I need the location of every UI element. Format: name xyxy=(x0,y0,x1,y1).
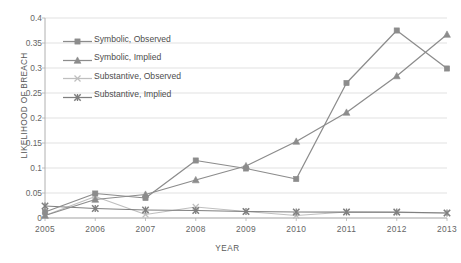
x-tick-label: 2012 xyxy=(374,224,420,234)
legend-item[interactable]: Symbolic, Observed xyxy=(63,33,181,44)
x-tick-label: 2005 xyxy=(22,224,68,234)
legend-item[interactable]: Substantive, Observed xyxy=(63,70,181,81)
chart-legend: Symbolic, ObservedSymbolic, ImpliedSubst… xyxy=(63,33,181,100)
legend-item-label: Symbolic, Observed xyxy=(94,34,171,44)
x-tick-label: 2013 xyxy=(424,224,461,234)
x-tick-label: 2007 xyxy=(123,224,169,234)
marker-square xyxy=(75,39,80,44)
legend-marker-x-icon xyxy=(63,70,92,81)
legend-marker-star-x-icon xyxy=(63,89,92,100)
legend-item[interactable]: Symbolic, Implied xyxy=(63,52,181,63)
x-tick-label: 2009 xyxy=(223,224,269,234)
x-axis-title: YEAR xyxy=(0,244,455,253)
x-tick-label: 2011 xyxy=(324,224,370,234)
legend-item-label: Substantive, Observed xyxy=(94,71,181,81)
x-tick-label: 2006 xyxy=(72,224,118,234)
legend-item-label: Substantive, Implied xyxy=(94,89,171,99)
legend-marker-triangle-icon xyxy=(63,52,92,63)
legend-marker-square-icon xyxy=(63,33,92,44)
legend-item-label: Symbolic, Implied xyxy=(94,52,161,62)
legend-item[interactable]: Substantive, Implied xyxy=(63,89,181,100)
x-tick-label: 2010 xyxy=(273,224,319,234)
x-tick-label: 2008 xyxy=(173,224,219,234)
